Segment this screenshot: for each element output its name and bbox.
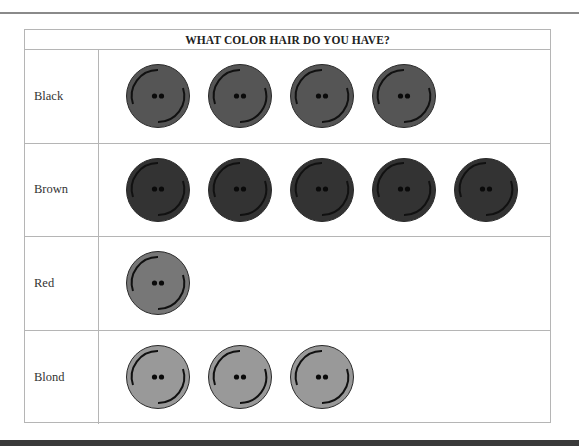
button-icon [208,345,272,409]
button-icon [126,345,190,409]
button-icon [126,158,190,222]
bottom-bar [0,440,579,446]
button-icon [126,251,190,315]
top-divider [0,12,579,14]
icon-cell [99,331,550,425]
button-icon [372,158,436,222]
row-blond: Blond [25,331,550,425]
hair-color-pictograph: WHAT COLOR HAIR DO YOU HAVE? Black Brown… [24,29,551,423]
row-label: Black [25,50,99,143]
button-icon [290,345,354,409]
button-icon [372,64,436,128]
icon-cell [99,237,550,330]
row-label: Blond [25,331,99,425]
button-icon [208,158,272,222]
row-black: Black [25,50,550,144]
chart-title: WHAT COLOR HAIR DO YOU HAVE? [25,30,550,50]
row-brown: Brown [25,144,550,238]
icon-cell [99,50,550,143]
button-icon [208,64,272,128]
button-icon [126,64,190,128]
button-icon [290,158,354,222]
row-red: Red [25,237,550,331]
button-icon [290,64,354,128]
button-icon [454,158,518,222]
icon-cell [99,144,550,237]
row-label: Red [25,237,99,330]
row-label: Brown [25,144,99,237]
